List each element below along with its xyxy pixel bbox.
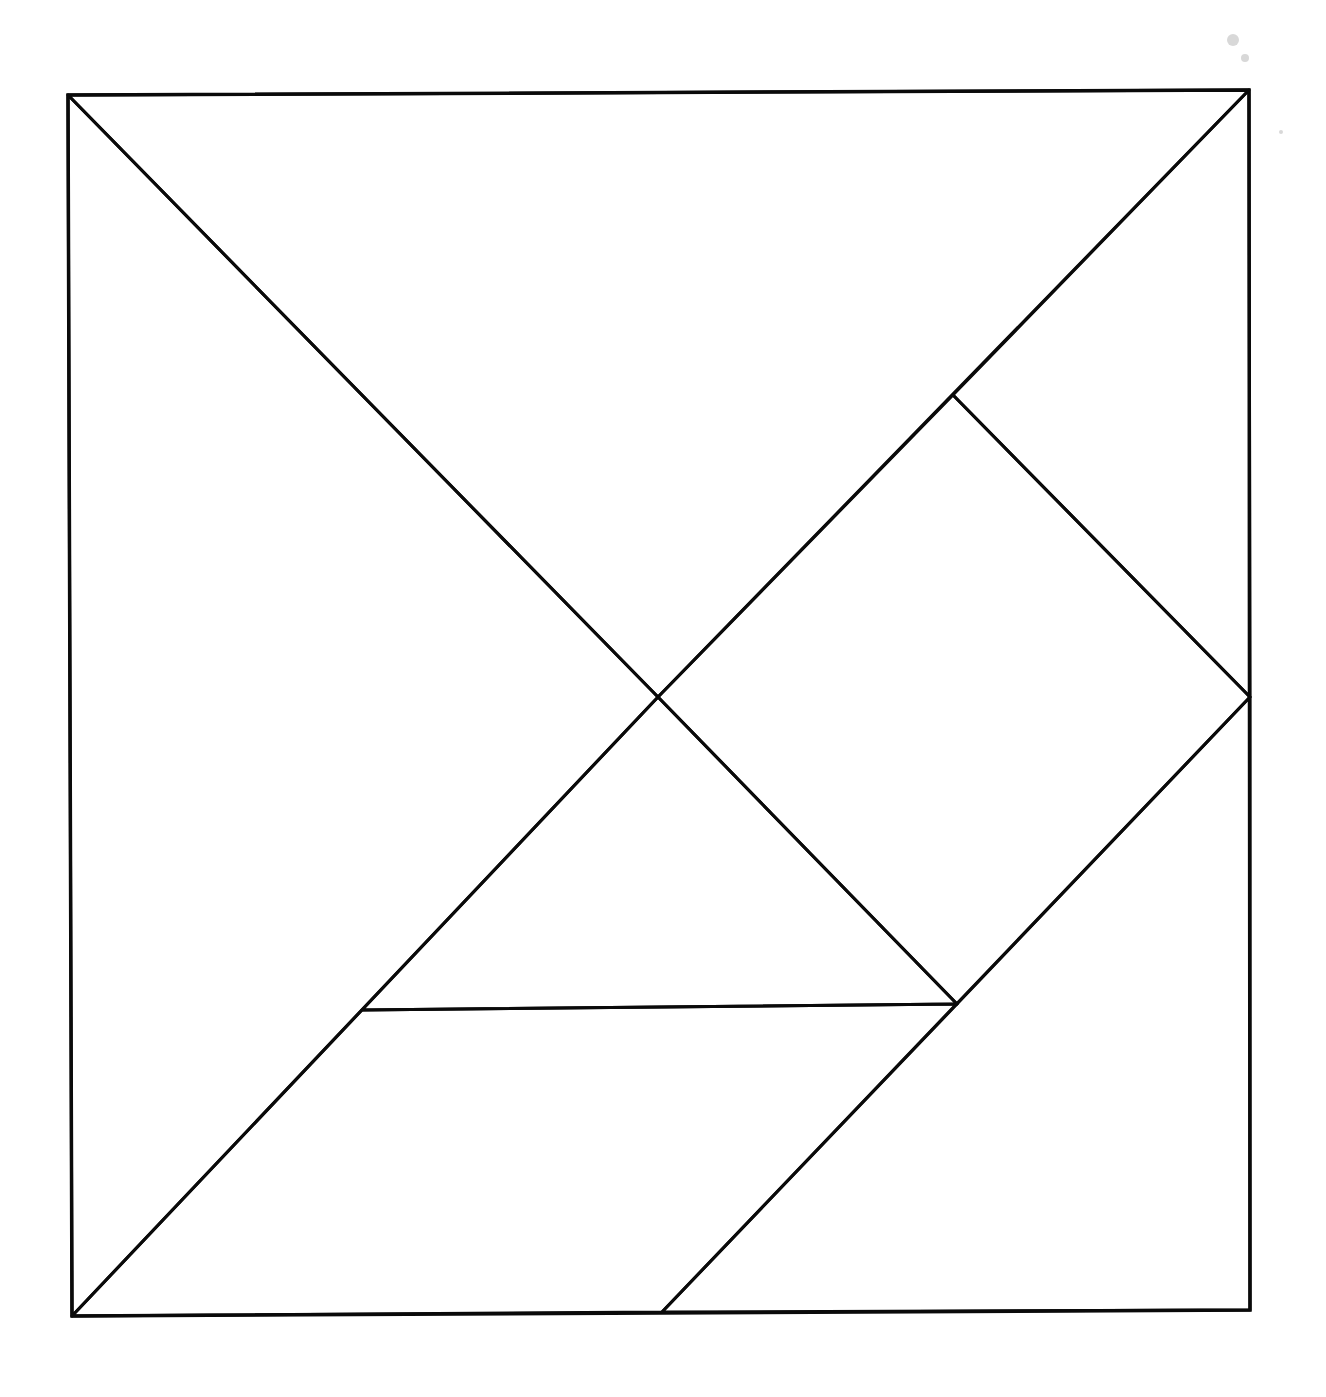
piece-parallelogram (72, 1004, 957, 1316)
piece-medium-triangle-bottom-right (662, 697, 1250, 1312)
piece-square (658, 395, 1250, 1004)
piece-small-triangle-top-right (953, 90, 1250, 697)
tangram-diagram (0, 0, 1326, 1397)
piece-large-triangle-top (68, 90, 1249, 697)
scan-speck (1241, 54, 1249, 62)
scan-speck (1279, 130, 1283, 134)
tangram-pieces (68, 90, 1250, 1316)
piece-large-triangle-left (68, 95, 658, 1316)
scan-speck (1227, 34, 1239, 46)
piece-small-triangle-middle (362, 697, 957, 1010)
